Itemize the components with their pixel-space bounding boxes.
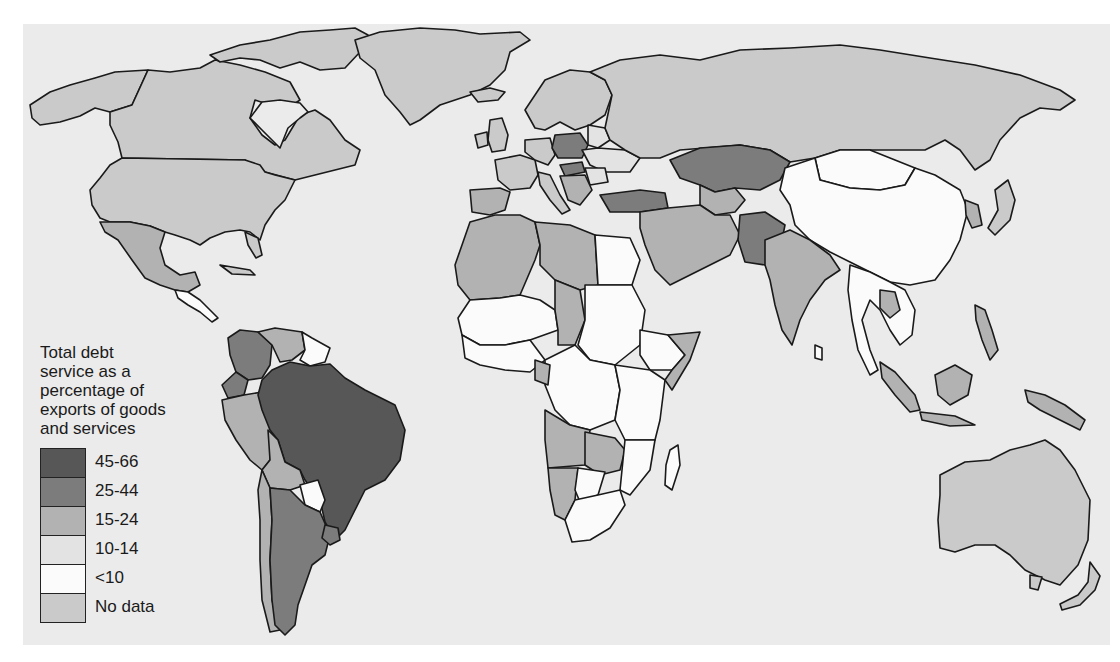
legend-label: 45-66 [95,452,138,472]
region-hungary [560,162,585,176]
legend-title-line: and services [40,419,230,438]
region-new-guinea [1025,390,1085,430]
region-korea [965,200,982,228]
region-japan [988,180,1015,235]
legend-swatch [40,506,86,535]
north-america [30,28,530,322]
region-france [495,155,538,190]
legend-title-line: Total debt [40,343,230,362]
legend-item: 15-24 [40,506,230,535]
region-egypt [595,235,640,285]
region-russia [590,45,1075,170]
region-tasmania [1030,575,1042,590]
region-sudan [578,285,645,365]
region-cameroon [535,360,550,385]
legend-item: No data [40,593,230,622]
legend-item: 25-44 [40,477,230,506]
legend-title-line: exports of goods [40,400,230,419]
legend-label: No data [95,597,155,617]
region-balkans [560,175,592,205]
region-kazakhstan [670,145,790,192]
region-libya [535,222,598,290]
region-guianas [300,332,330,366]
legend-label: <10 [95,568,124,588]
region-java [920,412,975,426]
region-mozambique [620,440,655,495]
legend-item: 45-66 [40,448,230,477]
legend-title-line: percentage of [40,381,230,400]
region-north-africa-west [455,215,540,300]
region-greenland [355,28,530,125]
asia [590,45,1085,430]
legend-title-line: service as a [40,362,230,381]
legend-swatch [40,564,86,593]
region-sumatra [880,362,920,412]
legend-item: 10-14 [40,535,230,564]
region-iberia [470,188,510,215]
region-madagascar [665,445,680,490]
legend-title: Total debt service as a percentage of ex… [40,343,230,438]
region-central-america [175,290,218,322]
region-poland [552,133,588,158]
oceania [938,440,1100,610]
region-middle-east [640,205,740,285]
region-borneo [935,365,972,405]
region-sri-lanka [815,345,822,360]
legend-label: 15-24 [95,510,138,530]
legend: 45-66 25-44 15-24 10-14 <10 No data [40,448,230,622]
south-america [222,328,405,635]
region-ireland [475,132,488,148]
legend-swatch [40,593,86,623]
region-uk [488,118,508,152]
legend-swatch [40,535,86,564]
legend-swatch [40,477,86,506]
legend-label: 25-44 [95,481,138,501]
region-philippines [975,305,998,360]
legend-item: <10 [40,564,230,593]
region-scandinavia [525,70,612,130]
region-australia [938,440,1090,585]
region-sahel-west [458,295,558,345]
legend-swatch [40,448,86,477]
legend-label: 10-14 [95,539,138,559]
region-cuba [220,265,255,275]
region-zambia-zimbabwe [585,432,625,475]
region-east-africa [615,365,665,440]
